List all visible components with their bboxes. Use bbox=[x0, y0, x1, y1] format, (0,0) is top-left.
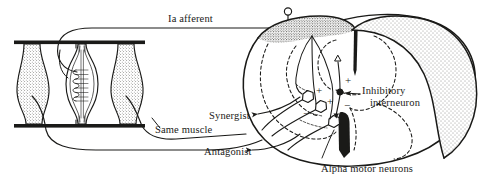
label-same-muscle: Same muscle bbox=[155, 124, 212, 136]
extrafusal-fiber-left bbox=[17, 44, 49, 124]
sign-inhibitory-antagonist: − bbox=[344, 100, 350, 112]
label-inhibitory-line1: Inhibitory bbox=[362, 85, 406, 96]
sign-excitatory-same-muscle: + bbox=[327, 96, 333, 108]
label-synergist: Synergist bbox=[209, 110, 250, 122]
figure-stretch-reflex-diagram: Ia afferent Synergist Same muscle Antago… bbox=[0, 0, 491, 183]
label-antagonist: Antagonist bbox=[204, 146, 252, 158]
label-inhibitory-interneuron: Inhibitory interneuron bbox=[362, 85, 438, 108]
ventral-median-fissure bbox=[339, 112, 351, 158]
sign-excitatory-synergist: + bbox=[316, 85, 322, 97]
label-inhibitory-line2: interneuron bbox=[370, 97, 420, 109]
label-alpha-motor-neurons: Alpha motor neurons bbox=[321, 163, 413, 175]
muscle-spindle-intrafusal bbox=[66, 44, 98, 124]
label-ia-afferent: Ia afferent bbox=[168, 13, 213, 25]
motor-axon-same-muscle bbox=[32, 96, 262, 150]
sign-inhibitory-branch: − bbox=[303, 108, 309, 120]
sign-excitatory-interneuron: + bbox=[345, 75, 351, 87]
extrafusal-fiber-right bbox=[111, 44, 143, 124]
